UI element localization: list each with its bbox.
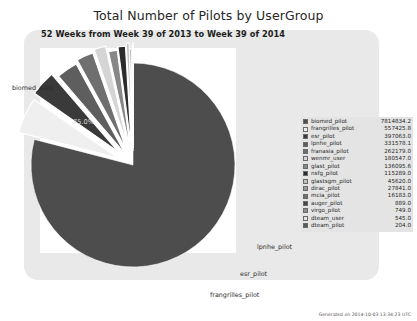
legend-swatch-icon <box>303 156 308 161</box>
legend-value: 45620.0 <box>388 178 411 185</box>
chart-legend: biomed_pilot7814834.2frangrilles_pilot55… <box>301 117 413 232</box>
legend-label: auger_pilot <box>311 200 395 207</box>
legend-value: 27841.0 <box>388 185 411 192</box>
legend-swatch-icon <box>303 216 308 221</box>
legend-swatch-icon <box>303 134 308 139</box>
legend-value: 7814834.2 <box>381 118 411 125</box>
legend-swatch-icon <box>303 127 308 132</box>
legend-value: 136095.6 <box>384 163 411 170</box>
legend-swatch-icon <box>303 208 308 213</box>
legend-swatch-icon <box>303 119 308 124</box>
legend-item[interactable]: nsfg_pilot115289.0 <box>303 170 411 177</box>
legend-item[interactable]: glastsgm_pilot45620.0 <box>303 178 411 185</box>
legend-swatch-icon <box>303 179 308 184</box>
legend-item[interactable]: wenmr_user180547.0 <box>303 155 411 162</box>
legend-label: wenmr_user <box>311 155 384 162</box>
legend-swatch-icon <box>303 186 308 191</box>
legend-label: mcia_pilot <box>311 192 388 199</box>
legend-label: dteam_user <box>311 215 395 222</box>
legend-value: 262179.0 <box>384 148 411 155</box>
legend-value: 889.0 <box>395 200 411 207</box>
legend-value: 557425.8 <box>384 125 411 132</box>
pie-label-frangrilles-pilot: frangrilles_pilot <box>210 291 259 299</box>
legend-item[interactable]: frangrilles_pilot557425.8 <box>303 125 411 132</box>
legend-value: 331578.1 <box>384 140 411 147</box>
legend-value: 397063.0 <box>384 133 411 140</box>
legend-swatch-icon <box>303 223 308 228</box>
legend-swatch-icon <box>303 194 308 199</box>
chart-page: Total Number of Pilots by UserGroup 52 W… <box>0 0 417 321</box>
legend-value: 545.0 <box>395 215 411 222</box>
legend-label: nsfg_pilot <box>311 170 384 177</box>
pie-label-lpnhe-pilot: lpnhe_pilot <box>257 243 292 251</box>
legend-label: franasia_pilot <box>311 148 384 155</box>
legend-value: 115289.0 <box>384 170 411 177</box>
legend-swatch-icon <box>303 171 308 176</box>
legend-label: dirac_pilot <box>311 185 388 192</box>
legend-item[interactable]: glast_pilot136095.6 <box>303 163 411 170</box>
legend-item[interactable]: mcia_pilot16183.0 <box>303 192 411 199</box>
legend-label: lpnhe_pilot <box>311 140 384 147</box>
legend-item[interactable]: lpnhe_pilot331578.1 <box>303 140 411 147</box>
legend-swatch-icon <box>303 164 308 169</box>
legend-label: virgo_pilot <box>311 207 395 214</box>
legend-item[interactable]: virgo_pilot749.0 <box>303 207 411 214</box>
legend-item[interactable]: biomed_pilot7814834.2 <box>303 118 411 125</box>
legend-item[interactable]: esr_pilot397063.0 <box>303 133 411 140</box>
legend-value: 180547.0 <box>384 155 411 162</box>
legend-value: 749.0 <box>395 207 411 214</box>
legend-label: frangrilles_pilot <box>311 125 384 132</box>
legend-label: esr_pilot <box>311 133 384 140</box>
generated-timestamp: Generated on 2014-10-03 13:34:23 UTC <box>319 312 411 317</box>
legend-item[interactable]: dteam_user545.0 <box>303 215 411 222</box>
legend-label: glastsgm_pilot <box>311 178 388 185</box>
legend-swatch-icon <box>303 201 308 206</box>
legend-label: dteam_pilot <box>311 222 395 229</box>
legend-label: biomed_pilot <box>311 118 381 125</box>
pie-percentage-label: 75.0% <box>73 118 94 126</box>
legend-value: 16183.0 <box>388 192 411 199</box>
legend-value: 204.0 <box>395 222 411 229</box>
legend-label: glast_pilot <box>311 163 384 170</box>
legend-swatch-icon <box>303 149 308 154</box>
legend-swatch-icon <box>303 142 308 147</box>
legend-item[interactable]: auger_pilot889.0 <box>303 200 411 207</box>
legend-item[interactable]: dteam_pilot204.0 <box>303 222 411 229</box>
pie-label-esr-pilot: esr_pilot <box>240 270 267 278</box>
legend-item[interactable]: dirac_pilot27841.0 <box>303 185 411 192</box>
pie-label-biomed-pilot: biomed_pilot <box>12 84 53 92</box>
legend-item[interactable]: franasia_pilot262179.0 <box>303 148 411 155</box>
